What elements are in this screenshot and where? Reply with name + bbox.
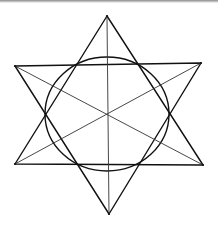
vertex-upper-left (14, 65, 16, 67)
vertex-lower-right (202, 164, 204, 166)
vertex-lower-left (14, 163, 16, 165)
vertex-bottom (108, 213, 110, 215)
vertex-upper-right (200, 62, 202, 64)
upward-triangle (15, 16, 203, 165)
vertex-top (106, 15, 108, 17)
hexagram-diagram (0, 0, 218, 230)
diagonal-line-ul-lr (15, 66, 203, 165)
